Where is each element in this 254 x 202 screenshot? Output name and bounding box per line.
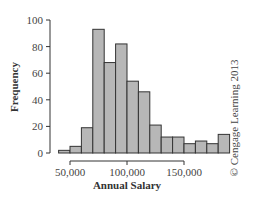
histogram-bar: [127, 81, 138, 153]
y-tick-label: 100: [27, 14, 44, 26]
histogram-bar: [207, 144, 218, 153]
histogram-bar: [138, 92, 149, 153]
histogram-bar: [184, 144, 195, 153]
histogram-bar: [150, 125, 161, 153]
y-axis-title: Frequency: [8, 62, 20, 112]
x-tick-label: 50,000: [55, 166, 86, 178]
y-tick-label: 60: [32, 67, 44, 79]
y-tick-label: 80: [32, 41, 44, 53]
histogram-bar: [70, 146, 81, 153]
histogram-bar: [104, 63, 115, 153]
x-axis-title: Annual Salary: [93, 179, 162, 191]
histogram-bar: [195, 141, 206, 153]
histogram-bar: [59, 150, 70, 153]
y-tick-label: 0: [38, 147, 44, 159]
copyright-notice: © Cengage Learning 2013: [228, 59, 240, 176]
x-axis: 50,000100,000150,000: [55, 161, 203, 178]
histogram-bar: [161, 137, 172, 153]
histogram-bar: [93, 29, 104, 153]
histogram-bar: [116, 44, 127, 153]
histogram-bar: [81, 128, 92, 153]
y-axis: 020406080100: [27, 14, 51, 159]
histogram-chart: 020406080100 50,000100,000150,000 Freque…: [0, 0, 254, 202]
y-tick-label: 40: [32, 94, 44, 106]
histogram-bars: [59, 29, 230, 153]
x-tick-label: 100,000: [109, 166, 145, 178]
histogram-bar: [173, 137, 184, 153]
x-tick-label: 150,000: [166, 166, 202, 178]
y-tick-label: 20: [32, 120, 44, 132]
